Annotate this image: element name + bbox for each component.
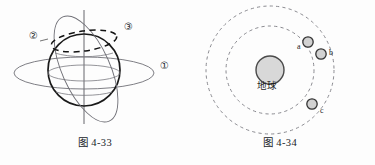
orbit-label-2: ② [29,31,38,41]
figure-4-34: 地球 a b c 图 4-34 [185,0,375,165]
orbit-label-1: ① [160,61,169,71]
satellite-b [316,49,326,59]
satellite-c-label: c [320,107,324,115]
figure-4-33-caption: 图 4-33 [0,134,190,149]
earth-label: 地球 [257,81,277,91]
figure-page: ② ③ ① 图 4-33 地球 a b c 图 4-34 [0,0,375,165]
ring-2-leader-line [40,39,48,41]
satellite-a [303,37,313,47]
orbit-label-3: ③ [124,22,133,32]
satellite-a-label: a [297,43,301,51]
figure-4-34-caption: 图 4-34 [185,134,375,149]
orbit-ring-3 [41,7,131,131]
satellite-c [307,99,317,109]
satellite-b-label: b [329,49,333,57]
figure-4-33: ② ③ ① 图 4-33 [0,0,190,165]
